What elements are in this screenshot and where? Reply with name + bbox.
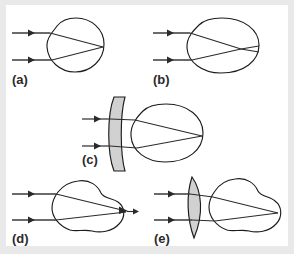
panel-e: (e) <box>154 177 281 246</box>
panel-label-c: (c) <box>82 152 98 167</box>
concave-corrective-lens-c <box>109 97 125 171</box>
panel-a: (a) <box>12 18 104 87</box>
ray-arrow-upper-b <box>167 30 174 37</box>
figure-container: (a) (b) <box>0 0 294 254</box>
refracted-ray-lower-a <box>52 47 103 60</box>
ray-arrow-upper-d <box>28 191 35 198</box>
ray-arrow-upper-e <box>168 191 175 198</box>
panel-label-a: (a) <box>12 72 28 87</box>
ray-arrow-lower-c <box>94 143 101 150</box>
figure-plate: (a) (b) <box>6 5 288 246</box>
refracted-ray-lower-b <box>192 46 259 60</box>
panel-label-b: (b) <box>153 72 170 87</box>
refracted-ray-upper-b <box>190 33 259 52</box>
refracted-ray-upper-c <box>110 119 202 136</box>
ray-arrow-upper-c <box>94 116 101 123</box>
panel-c: (c) <box>82 97 203 171</box>
ray-arrow-upper-a <box>28 30 35 37</box>
refracted-ray-upper-d <box>56 194 126 211</box>
refracted-ray-upper-a <box>50 33 103 47</box>
eye-outline-b <box>187 18 259 73</box>
refracted-ray-lower-c <box>110 136 202 148</box>
panel-d: (d) <box>12 181 139 246</box>
refracted-ray-lower-e <box>192 213 278 221</box>
ray-arrow-lower-e <box>168 217 175 224</box>
panel-label-e: (e) <box>154 231 170 246</box>
refracted-ray-upper-e <box>190 194 278 213</box>
ray-arrow-lower-d <box>28 217 35 224</box>
eye-outline-c <box>131 104 203 162</box>
ray-arrow-lower-a <box>28 57 35 64</box>
virtual-focus-arrow-d <box>133 209 139 215</box>
optics-diagram: (a) (b) <box>6 5 288 246</box>
ray-arrow-lower-b <box>167 57 174 64</box>
panel-b: (b) <box>153 18 259 87</box>
convex-corrective-lens-e <box>188 177 201 238</box>
eye-outline-d <box>52 181 124 232</box>
refracted-ray-lower-d <box>56 212 126 220</box>
panel-label-d: (d) <box>12 231 29 246</box>
